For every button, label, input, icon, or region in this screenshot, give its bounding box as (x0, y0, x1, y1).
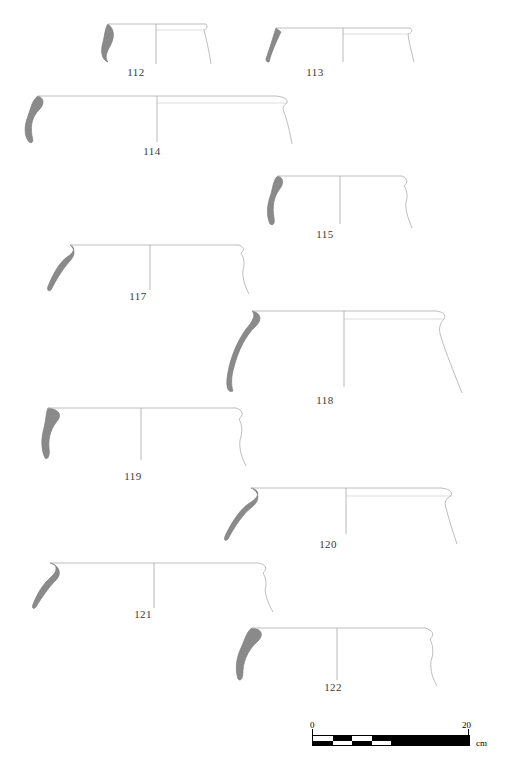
outer-profile-121 (258, 563, 273, 612)
vessel-drawing-115 (262, 172, 418, 234)
vessel-label-120: 120 (308, 538, 348, 550)
vessel-label-122: 122 (313, 681, 353, 693)
scale-bar: 0 20 cm (310, 720, 490, 760)
vessel-label-118: 118 (305, 394, 345, 406)
section-fill-115 (267, 176, 282, 225)
vessel-profile-svg-118 (222, 305, 472, 401)
vessel-label-113: 113 (295, 66, 335, 78)
section-fill-118 (227, 311, 260, 392)
scale-cell-bottom-3 (352, 741, 372, 746)
vessel-label-112: 112 (116, 66, 156, 78)
scale-unit-label: cm (476, 738, 487, 748)
vessel-drawing-118 (222, 305, 472, 401)
section-fill-119 (42, 408, 60, 459)
vessel-profile-svg-113 (262, 22, 416, 66)
vessel-profile-svg-114 (18, 92, 294, 150)
outer-profile-113 (408, 28, 414, 62)
section-fill-114 (25, 96, 43, 143)
vessel-label-115: 115 (305, 228, 345, 240)
vessel-label-119: 119 (113, 470, 153, 482)
section-fill-120 (225, 488, 258, 540)
outer-profile-115 (402, 176, 412, 228)
vessel-drawing-119 (36, 402, 256, 472)
vessel-label-117: 117 (118, 290, 158, 302)
section-fill-117 (48, 245, 75, 291)
section-fill-121 (33, 563, 60, 608)
outer-profile-118 (436, 311, 462, 393)
scale-cell-bottom-1 (313, 741, 333, 746)
scale-cell-bottom-solid (391, 741, 469, 746)
vessel-profile-svg-112 (98, 20, 214, 68)
outer-profile-122 (425, 628, 437, 686)
outer-profile-112 (204, 24, 211, 64)
pottery-plate: 112 113 114 115 (0, 0, 513, 769)
vessel-drawing-112 (98, 20, 214, 68)
outer-profile-120 (441, 488, 457, 544)
vessel-drawing-114 (18, 92, 294, 150)
scale-end-label: 20 (462, 720, 471, 730)
scale-cell-bottom-4 (372, 741, 392, 746)
outer-profile-117 (238, 245, 249, 294)
vessel-label-114: 114 (132, 145, 172, 157)
section-fill-112 (102, 24, 114, 62)
section-fill-113 (266, 28, 281, 62)
vessel-profile-svg-115 (262, 172, 418, 234)
section-fill-122 (236, 628, 261, 680)
vessel-profile-svg-119 (36, 402, 256, 472)
outer-profile-119 (236, 408, 246, 466)
vessel-label-121: 121 (123, 608, 163, 620)
scale-cell-bottom-2 (333, 741, 353, 746)
vessel-drawing-113 (262, 22, 416, 66)
scale-bar-frame (312, 735, 470, 746)
